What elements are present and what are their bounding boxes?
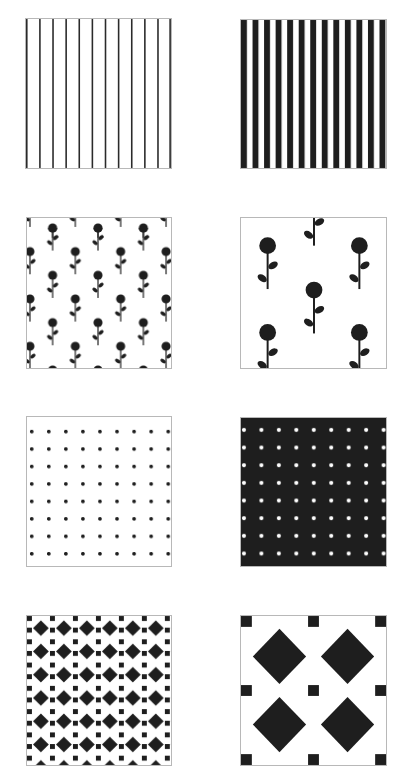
- small-flowers-swatch: [26, 217, 172, 369]
- black-dots-swatch: [26, 416, 172, 567]
- thin-stripes-pattern: [26, 19, 171, 168]
- white-dots-swatch: [240, 417, 387, 567]
- large-diamonds-swatch: [240, 615, 387, 766]
- thick-stripes-swatch: [240, 19, 387, 169]
- small-diamonds-swatch: [26, 615, 172, 766]
- small-flowers-pattern: [27, 218, 171, 368]
- thin-stripes-swatch: [25, 18, 172, 169]
- black-dots-pattern: [27, 417, 171, 566]
- thick-stripes-pattern: [241, 20, 386, 168]
- large-flowers-pattern: [241, 218, 386, 368]
- small-diamonds-pattern: [27, 616, 171, 765]
- white-dots-pattern: [241, 418, 386, 566]
- large-flowers-swatch: [240, 217, 387, 369]
- large-diamonds-pattern: [241, 616, 386, 765]
